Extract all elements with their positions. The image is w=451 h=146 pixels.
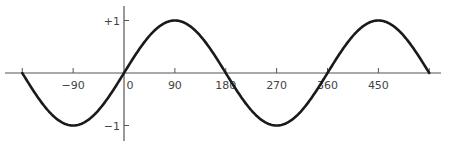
x-tick-label: 0 xyxy=(127,79,134,92)
x-tick-label: 270 xyxy=(266,79,287,92)
x-tick-label: 90 xyxy=(168,79,182,92)
x-tick-label: −90 xyxy=(62,79,85,92)
sine-chart: −90090180270360450+1−1 xyxy=(0,0,451,146)
x-tick-label: 450 xyxy=(368,79,389,92)
y-tick-label: +1 xyxy=(104,15,120,28)
y-tick-label: −1 xyxy=(104,120,120,133)
